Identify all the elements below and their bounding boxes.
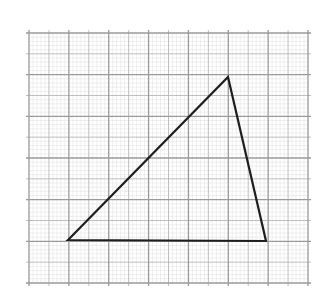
graph-paper-diagram: [0, 0, 328, 300]
